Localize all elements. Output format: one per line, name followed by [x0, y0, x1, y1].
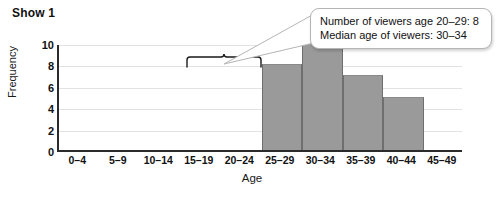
bar [383, 97, 424, 151]
x-tick-label: 15–19 [184, 154, 213, 166]
plot-area: 0246810 [57, 45, 462, 152]
bar [262, 64, 303, 150]
x-tick-label: 5–9 [109, 154, 127, 166]
y-axis-title: Frequency [6, 46, 18, 98]
x-tick-label: 35–39 [346, 154, 375, 166]
x-tick-label: 10–14 [144, 154, 173, 166]
bar [343, 75, 384, 150]
x-axis-tick-labels: 0–45–910–1415–1920–2425–2930–3435–3940–4… [57, 154, 462, 170]
x-tick-label: 20–24 [225, 154, 254, 166]
y-tick-label: 4 [48, 103, 54, 115]
y-tick-label: 6 [48, 82, 54, 94]
y-tick-label: 10 [42, 39, 54, 51]
x-tick-label: 25–29 [265, 154, 294, 166]
x-tick-label: 40–44 [387, 154, 416, 166]
x-tick-label: 0–4 [68, 154, 86, 166]
bars-layer [59, 45, 462, 150]
x-tick-label: 45–49 [427, 154, 456, 166]
x-axis-title: Age [0, 172, 504, 184]
callout-line-2: Median age of viewers: 30–34 [320, 28, 483, 42]
callout-line-1: Number of viewers age 20–29: 8 [320, 14, 483, 28]
bar [302, 43, 343, 150]
callout-box: Number of viewers age 20–29: 8 Median ag… [310, 8, 492, 49]
y-tick-label: 2 [48, 125, 54, 137]
chart-title: Show 1 [12, 6, 55, 20]
y-tick-label: 8 [48, 60, 54, 72]
x-tick-label: 30–34 [306, 154, 335, 166]
y-tick-label: 0 [48, 146, 54, 158]
